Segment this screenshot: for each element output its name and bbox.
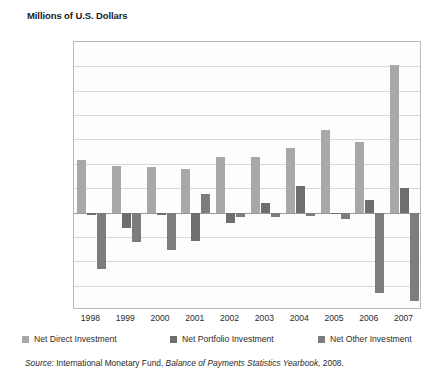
chart-legend: Net Direct InvestmentNet Portfolio Inves… [22,334,427,350]
bar [341,213,350,219]
bar [355,142,364,213]
legend-item: Net Direct Investment [22,334,117,344]
legend-swatch-icon [170,336,177,343]
bar [77,160,86,212]
bar [112,166,121,212]
x-axis-tick-label: 2007 [381,313,427,323]
bar [201,194,210,212]
bar [331,213,340,214]
gridline [74,188,420,189]
bar [226,213,235,224]
bar [410,213,419,302]
source-note: Source: International Monetary Fund, Bal… [25,358,344,368]
bar [306,213,315,217]
bar [87,213,96,215]
bar [132,213,141,242]
bar [167,213,176,251]
bar [216,157,225,213]
source-prefix: Source: [25,358,54,368]
bar [236,213,245,218]
legend-label: Net Other Investment [330,334,412,344]
bar [191,213,200,241]
gridline [74,66,420,67]
gridline [74,286,420,287]
chart-figure: Millions of U.S. Dollars $140,000$120,00… [0,0,447,375]
bar [271,213,280,218]
source-year: 2008. [323,358,344,368]
legend-label: Net Portfolio Investment [182,334,274,344]
bar [157,213,166,215]
legend-item: Net Other Investment [318,334,412,344]
bar [321,130,330,213]
source-agency: International Monetary Fund, [56,358,163,368]
gridline [74,164,420,165]
bar [296,186,305,213]
legend-label: Net Direct Investment [34,334,117,344]
gridline [74,139,420,140]
legend-swatch-icon [22,336,29,343]
legend-swatch-icon [318,336,325,343]
bar [375,213,384,293]
bar [97,213,106,269]
gridline [74,237,420,238]
gridline [74,261,420,262]
bar [261,203,270,213]
gridline [74,115,420,116]
bar [400,188,409,212]
plot-area [73,41,421,309]
chart-title: Millions of U.S. Dollars [27,10,128,21]
bar [147,167,156,212]
bar [122,213,131,229]
source-publication: Balance of Payments Statistics Yearbook, [166,358,321,368]
bar [286,148,295,213]
legend-item: Net Portfolio Investment [170,334,274,344]
bar [251,157,260,213]
gridline [74,91,420,92]
bar [390,65,399,212]
bar [365,200,374,212]
bar [181,169,190,213]
